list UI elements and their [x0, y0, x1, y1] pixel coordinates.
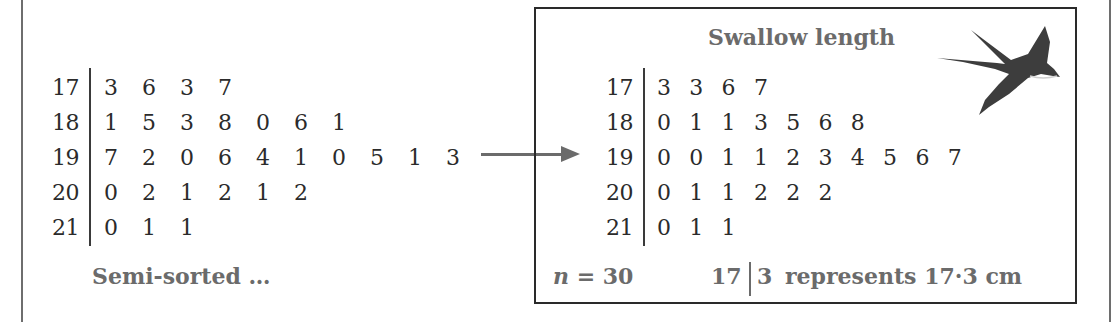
- leaf-value: 1: [719, 175, 739, 210]
- stem-value: 17: [593, 70, 633, 105]
- leaf-value: 3: [751, 105, 771, 140]
- leaf-value: 3: [686, 70, 706, 105]
- stem-value: 18: [593, 105, 633, 140]
- leaf-value: 6: [719, 70, 739, 105]
- stem-key-stem: 17: [711, 263, 742, 289]
- sample-size-label: n = 30: [553, 263, 633, 289]
- stem-key-explanation: represents 17·3 cm: [785, 263, 1022, 289]
- leaf-value: 2: [816, 175, 836, 210]
- leaf-value: 0: [654, 140, 674, 175]
- leaf-value: 8: [848, 105, 868, 140]
- leaf-value: 7: [751, 70, 771, 105]
- leaf-value: 4: [848, 140, 868, 175]
- leaf-value: 2: [751, 175, 771, 210]
- leaf-value: 0: [654, 175, 674, 210]
- stem-value: 21: [593, 210, 633, 245]
- leaf-value: 1: [719, 140, 739, 175]
- leaf-value: 1: [719, 210, 739, 245]
- leaf-value: 3: [816, 140, 836, 175]
- leaf-value: 3: [654, 70, 674, 105]
- stem-value: 20: [593, 175, 633, 210]
- stem-key-leaf: 3: [757, 263, 772, 289]
- stem-divider: [643, 68, 645, 246]
- leaf-value: 7: [945, 140, 965, 175]
- leaf-value: 0: [654, 105, 674, 140]
- leaf-value: 5: [783, 105, 803, 140]
- leaf-value: 1: [751, 140, 771, 175]
- sorted-stem-leaf-plot: 1733671801135681900112345672001122221011: [0, 0, 1115, 300]
- leaf-value: 6: [816, 105, 836, 140]
- leaf-value: 1: [686, 105, 706, 140]
- leaf-value: 5: [880, 140, 900, 175]
- leaf-value: 0: [654, 210, 674, 245]
- leaf-value: 1: [719, 105, 739, 140]
- stem-value: 19: [593, 140, 633, 175]
- key-divider: [749, 262, 751, 296]
- leaf-value: 6: [912, 140, 932, 175]
- leaf-value: 1: [686, 175, 706, 210]
- leaf-value: 1: [686, 210, 706, 245]
- leaf-value: 0: [686, 140, 706, 175]
- leaf-value: 2: [783, 175, 803, 210]
- leaf-value: 2: [783, 140, 803, 175]
